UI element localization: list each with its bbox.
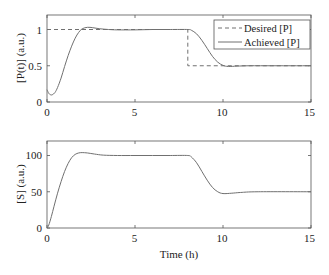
bottom-xtick-5: 5 [132, 232, 138, 244]
bottom-ytick-50: 50 [31, 186, 43, 198]
legend-achieved-label: Achieved [P] [244, 37, 300, 48]
top-ylabel: [P(t)] (a.u.) [14, 33, 27, 83]
top-xtick-0: 0 [44, 106, 50, 118]
bottom-axes-frame [47, 141, 311, 228]
bottom-ylabel: [S] (a.u.) [14, 164, 27, 204]
bottom-plot: 0 50 100 0 5 10 15 [S] (a.u.) Time (h) [14, 141, 316, 261]
legend: Desired [P] Achieved [P] [214, 20, 310, 49]
bottom-ticks [47, 141, 311, 228]
top-xtick-10: 10 [217, 106, 229, 118]
bottom-xtick-0: 0 [44, 232, 50, 244]
bottom-ytick-0: 0 [37, 222, 43, 234]
top-plot: 0 0.5 1 0 5 10 15 [P(t)] (a.u.) Desired … [14, 15, 316, 118]
top-ytick-1: 1 [37, 24, 43, 36]
s-line [47, 153, 311, 228]
bottom-ytick-100: 100 [26, 149, 43, 161]
top-xtick-15: 15 [304, 106, 316, 118]
top-ytick-0.5: 0.5 [28, 60, 42, 72]
figure: 0 0.5 1 0 5 10 15 [P(t)] (a.u.) Desired … [0, 0, 329, 275]
bottom-xtick-15: 15 [304, 232, 316, 244]
bottom-xlabel: Time (h) [160, 248, 199, 261]
bottom-xtick-10: 10 [217, 232, 229, 244]
top-ytick-0: 0 [37, 96, 43, 108]
top-xtick-5: 5 [132, 106, 138, 118]
legend-desired-label: Desired [P] [244, 23, 292, 34]
